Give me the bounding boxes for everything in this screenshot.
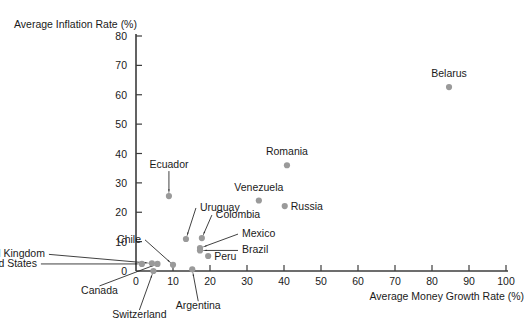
label-leader-line	[204, 215, 212, 233]
label-leader-line	[139, 276, 151, 310]
data-point	[446, 84, 452, 90]
data-point	[197, 247, 203, 253]
data-point-label: Belarus	[431, 67, 467, 79]
data-point-label: Mexico	[242, 227, 275, 239]
label-leader-line	[49, 254, 147, 263]
x-axis-title: Average Money Growth Rate (%)	[370, 290, 524, 302]
x-axis-tick-label: 80	[426, 275, 438, 287]
data-point	[149, 260, 155, 266]
data-point	[150, 268, 156, 274]
y-axis-tick-label: 50	[115, 118, 127, 130]
x-axis-tick-label: 60	[352, 275, 364, 287]
y-axis-title: Average Inflation Rate (%)	[14, 18, 137, 30]
data-point	[284, 162, 290, 168]
data-point-label: Ecuador	[149, 158, 189, 170]
y-axis-tick-label: 80	[115, 30, 127, 42]
x-axis-tick-label: 0	[133, 275, 139, 287]
data-point	[183, 236, 189, 242]
label-leader-line	[145, 240, 169, 261]
data-point	[205, 253, 211, 259]
scatter-chart: 010203040506070809010001020304050607080 …	[0, 0, 532, 335]
data-point	[139, 261, 145, 267]
data-point-label: Romania	[266, 145, 308, 157]
x-axis-tick-label: 20	[204, 275, 216, 287]
x-axis-tick-label: 40	[278, 275, 290, 287]
x-axis-tick-label: 70	[389, 275, 401, 287]
data-point	[170, 262, 176, 268]
data-point	[189, 266, 195, 272]
data-point-label: Switzerland	[112, 308, 166, 320]
x-axis-tick-label: 90	[463, 275, 475, 287]
data-point	[256, 197, 262, 203]
data-point-label: Argentina	[176, 299, 221, 311]
y-axis-tick-label: 60	[115, 89, 127, 101]
data-point-layer	[139, 84, 452, 274]
x-axis-tick-label: 100	[497, 275, 515, 287]
data-point-label: Canada	[81, 284, 118, 296]
y-axis-tick-label: 30	[115, 177, 127, 189]
data-point-label: Venezuela	[234, 181, 283, 193]
data-point	[166, 193, 172, 199]
data-point-label: Peru	[214, 250, 236, 262]
label-leader-line	[188, 208, 196, 234]
data-point-label: Colombia	[216, 208, 261, 220]
x-axis-tick-label: 10	[167, 275, 179, 287]
x-axis-tick-label: 50	[315, 275, 327, 287]
data-point-label: Brazil	[242, 243, 268, 255]
label-leader-line	[205, 234, 238, 246]
x-axis-tick-label: 30	[241, 275, 253, 287]
data-point-label: Russia	[291, 200, 323, 212]
data-point-label: Chile	[117, 233, 141, 245]
data-point-label: United States	[0, 257, 37, 269]
y-axis-tick-label: 0	[121, 265, 127, 277]
chart-canvas: 010203040506070809010001020304050607080 …	[0, 0, 532, 335]
data-point	[154, 261, 160, 267]
label-leader-line	[193, 275, 198, 302]
data-point	[282, 203, 288, 209]
y-axis-tick-label: 40	[115, 148, 127, 160]
y-axis-tick-label: 70	[115, 59, 127, 71]
data-point	[199, 235, 205, 241]
y-axis-tick-label: 20	[115, 206, 127, 218]
